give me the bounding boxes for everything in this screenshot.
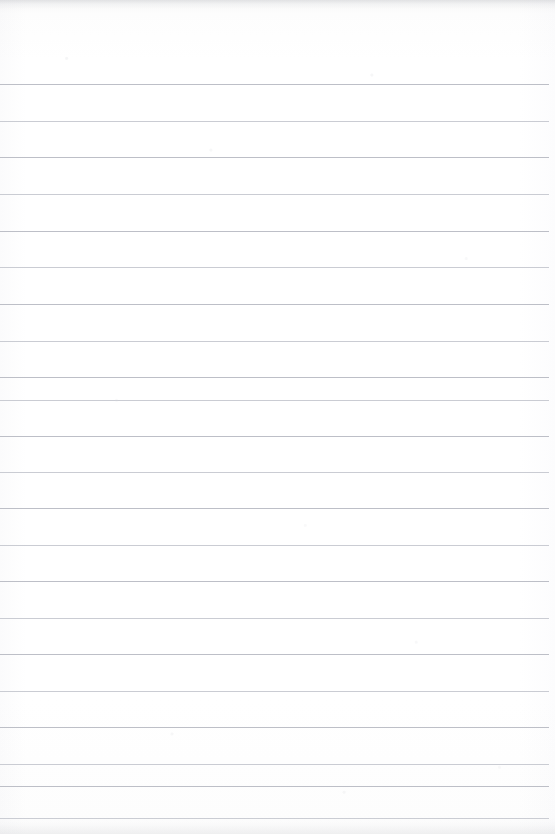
rule-line: [0, 691, 549, 692]
rule-line: [0, 618, 549, 619]
rule-line: [0, 194, 549, 195]
rule-line: [0, 436, 549, 437]
rule-line: [0, 341, 549, 342]
ruled-writing-area[interactable]: [0, 0, 555, 834]
rule-line: [0, 508, 549, 509]
rule-line: [0, 377, 549, 378]
rule-line: [0, 121, 549, 122]
rule-line: [0, 581, 549, 582]
rule-line: [0, 545, 549, 546]
rule-line: [0, 727, 549, 728]
rule-line: [0, 400, 549, 401]
rule-line: [0, 764, 549, 765]
rule-line: [0, 231, 549, 232]
rule-line: [0, 472, 549, 473]
rule-line: [0, 84, 549, 85]
rule-line: [0, 267, 549, 268]
rule-line: [0, 786, 549, 787]
rule-line: [0, 818, 549, 819]
rule-line: [0, 304, 549, 305]
notebook-page: [0, 0, 555, 834]
rule-line: [0, 157, 549, 158]
rule-line: [0, 654, 549, 655]
